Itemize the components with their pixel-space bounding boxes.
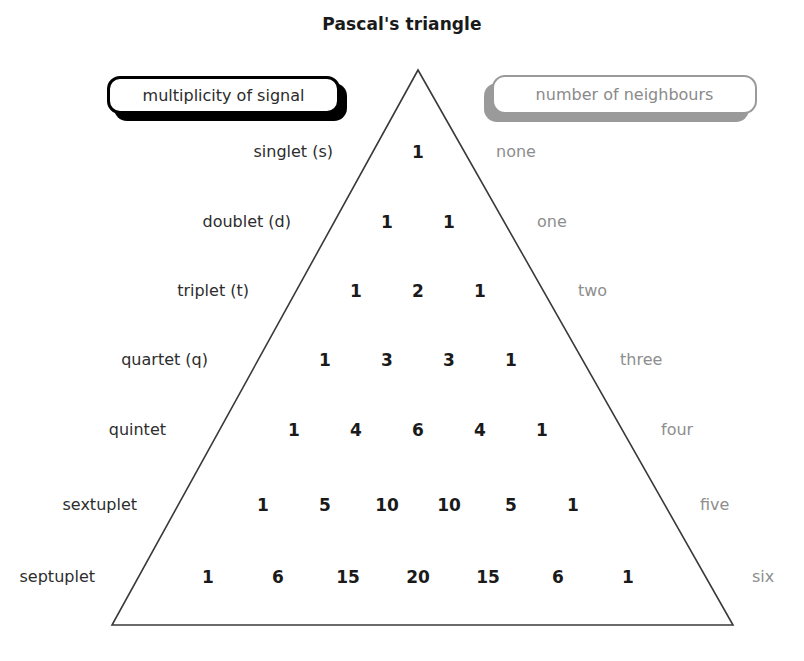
triangle-cell-r6-c2: 5 (319, 497, 331, 514)
triangle-cell-r7-c5: 15 (476, 569, 500, 586)
triangle-cell-r4-c1: 1 (319, 352, 331, 369)
triangle-cell-r2-c1: 1 (381, 214, 393, 231)
triangle-cell-r7-c4: 20 (406, 569, 430, 586)
neighbours-label-row-7: six (752, 569, 774, 585)
legend-number-of-neighbours[interactable]: number of neighbours (492, 75, 757, 114)
triangle-cell-r1-c1: 1 (412, 144, 424, 161)
triangle-cell-r7-c2: 6 (272, 569, 284, 586)
triangle-cell-r7-c1: 1 (202, 569, 214, 586)
legend-left-label: multiplicity of signal (143, 86, 305, 105)
multiplicity-label-row-7: septuplet (20, 569, 95, 585)
legend-right-label: number of neighbours (536, 85, 714, 104)
triangle-cell-r6-c3: 10 (375, 497, 399, 514)
triangle-cell-r5-c2: 4 (350, 422, 362, 439)
triangle-cell-r4-c4: 1 (505, 352, 517, 369)
multiplicity-label-row-5: quintet (109, 422, 166, 438)
triangle-cell-r2-c2: 1 (443, 214, 455, 231)
neighbours-label-row-5: four (661, 422, 693, 438)
triangle-cell-r5-c4: 4 (474, 422, 486, 439)
multiplicity-label-row-3: triplet (t) (177, 283, 249, 299)
multiplicity-label-row-2: doublet (d) (202, 214, 291, 230)
neighbours-label-row-6: five (700, 497, 729, 513)
triangle-cell-r7-c3: 15 (336, 569, 360, 586)
multiplicity-label-row-4: quartet (q) (121, 352, 208, 368)
triangle-cell-r7-c6: 6 (552, 569, 564, 586)
neighbours-label-row-3: two (578, 283, 607, 299)
legend-multiplicity-of-signal[interactable]: multiplicity of signal (107, 76, 340, 114)
pascals-triangle-figure: Pascal's triangle multiplicity of signal… (0, 0, 804, 661)
triangle-cell-r5-c3: 6 (412, 422, 424, 439)
triangle-cell-r3-c3: 1 (474, 283, 486, 300)
neighbours-label-row-1: none (496, 144, 536, 160)
neighbours-label-row-4: three (620, 352, 662, 368)
multiplicity-label-row-1: singlet (s) (253, 144, 333, 160)
triangle-cell-r3-c2: 2 (412, 283, 424, 300)
triangle-cell-r3-c1: 1 (350, 283, 362, 300)
triangle-cell-r5-c5: 1 (536, 422, 548, 439)
triangle-cell-r6-c4: 10 (437, 497, 461, 514)
triangle-cell-r6-c1: 1 (257, 497, 269, 514)
triangle-cell-r6-c5: 5 (505, 497, 517, 514)
multiplicity-label-row-6: sextuplet (63, 497, 138, 513)
triangle-cell-r4-c3: 3 (443, 352, 455, 369)
triangle-cell-r6-c6: 1 (567, 497, 579, 514)
triangle-cell-r7-c7: 1 (622, 569, 634, 586)
triangle-cell-r5-c1: 1 (288, 422, 300, 439)
triangle-cell-r4-c2: 3 (381, 352, 393, 369)
neighbours-label-row-2: one (537, 214, 567, 230)
